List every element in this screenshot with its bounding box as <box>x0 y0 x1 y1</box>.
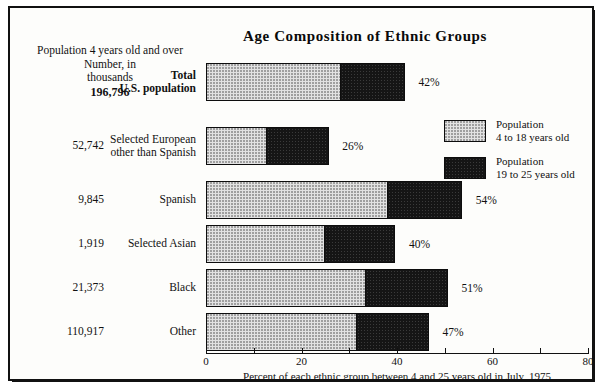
x-axis-tick <box>588 348 589 354</box>
bar-segment-4-to-18 <box>206 127 267 165</box>
row-population-number: 1,919 <box>24 237 104 249</box>
figure-frame: Age Composition of Ethnic Groups Populat… <box>8 6 594 381</box>
plot-area: 42%26%54%40%51%47% <box>206 63 588 351</box>
bar-segment-19-to-25 <box>365 269 448 307</box>
legend-entry-dark: Population 19 to 25 years old <box>444 155 594 185</box>
legend-swatch-light-icon <box>444 120 486 142</box>
legend-label-light: Population 4 to 18 years old <box>496 118 569 144</box>
row-population-number: 9,845 <box>24 193 104 205</box>
x-axis-minor-tick <box>349 348 350 354</box>
bar-percent-label: 40% <box>409 238 430 250</box>
chart-legend: Population 4 to 18 years old Population … <box>444 118 594 192</box>
legend-entry-light: Population 4 to 18 years old <box>444 118 594 148</box>
x-axis-tick-label: 40 <box>392 355 403 367</box>
bar-segment-19-to-25 <box>324 225 396 263</box>
x-axis-tick-label: 0 <box>203 355 209 367</box>
bar-row: 47% <box>206 313 588 351</box>
chart-title: Age Composition of Ethnic Groups <box>200 28 530 45</box>
x-axis-minor-tick <box>254 348 255 354</box>
x-axis-caption: Percent of each ethnic group between 4 a… <box>206 370 588 382</box>
bar-segment-19-to-25 <box>356 313 429 351</box>
bar-segment-19-to-25 <box>266 127 329 165</box>
legend-label-light-line1: Population <box>496 118 569 131</box>
row-category-label-line2: U.S. population <box>76 82 196 95</box>
left-header-line1: Population 4 years old and over <box>24 44 196 58</box>
x-axis-tick <box>493 348 494 354</box>
x-axis-tick <box>397 348 398 354</box>
row-category-label-line1: Total <box>76 69 196 82</box>
row-population-number: 21,373 <box>24 281 104 293</box>
legend-label-dark-line1: Population <box>496 155 575 168</box>
legend-label-light-line2: 4 to 18 years old <box>496 131 569 144</box>
bar-percent-label: 42% <box>419 76 440 88</box>
legend-label-dark: Population 19 to 25 years old <box>496 155 575 181</box>
x-axis-tick <box>206 348 207 354</box>
bar-segment-4-to-18 <box>206 313 358 351</box>
bar-segment-4-to-18 <box>206 225 325 263</box>
bar-percent-label: 47% <box>442 326 463 338</box>
bar-row: 40% <box>206 225 588 263</box>
legend-label-dark-line2: 19 to 25 years old <box>496 168 575 181</box>
bar-row: 51% <box>206 269 588 307</box>
bar-percent-label: 51% <box>462 282 483 294</box>
x-axis-tick-label: 80 <box>583 355 594 367</box>
bar-percent-label: 26% <box>342 140 363 152</box>
row-population-number: 110,917 <box>24 325 104 337</box>
bar-row: 42% <box>206 63 588 101</box>
x-axis-line <box>206 353 588 354</box>
bar-percent-label: 54% <box>476 194 497 206</box>
bar-segment-4-to-18 <box>206 181 389 219</box>
legend-swatch-dark-icon <box>444 157 486 179</box>
row-population-number: 52,742 <box>24 139 104 151</box>
bar-segment-4-to-18 <box>206 63 342 101</box>
bar-segment-4-to-18 <box>206 269 367 307</box>
bar-segment-19-to-25 <box>340 63 404 101</box>
x-axis-tick-label: 20 <box>296 355 307 367</box>
x-axis-tick-label: 60 <box>487 355 498 367</box>
x-axis-minor-tick <box>540 348 541 354</box>
x-axis-minor-tick <box>445 348 446 354</box>
x-axis-tick <box>302 348 303 354</box>
row-category-label: TotalU.S. population <box>76 69 196 95</box>
